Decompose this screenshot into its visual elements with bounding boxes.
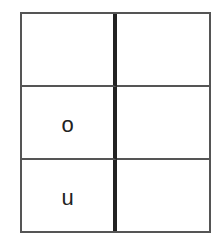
cell-row1-right	[117, 14, 209, 87]
cell-row1-left	[22, 14, 117, 87]
cell-row3-right	[117, 160, 209, 231]
cell-row3-left: u	[22, 160, 117, 231]
cell-row2-left: o	[22, 87, 117, 160]
cell-row2-right	[117, 87, 209, 160]
letter-grid: o u	[20, 12, 211, 233]
